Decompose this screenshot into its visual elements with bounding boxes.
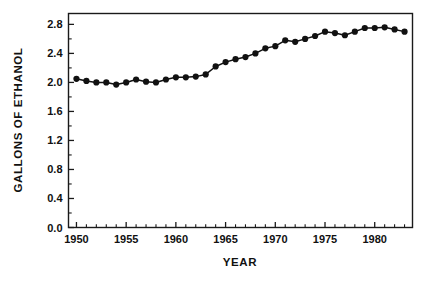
x-tick-label: 1980 <box>362 233 386 245</box>
y-axis-title: GALLONS OF ETHANOL <box>12 48 24 193</box>
y-tick-label: 0.4 <box>47 192 63 204</box>
y-tick-label: 2.8 <box>47 18 62 30</box>
data-point <box>113 81 119 87</box>
x-tick-label: 1975 <box>313 233 337 245</box>
data-point <box>312 33 318 39</box>
data-point <box>242 54 248 60</box>
y-tick-label: 1.6 <box>47 105 62 117</box>
data-point <box>322 29 328 35</box>
y-tick-label: 0.0 <box>47 222 62 234</box>
x-tick-label: 1965 <box>213 233 237 245</box>
line-chart: 0.00.40.81.21.62.02.42.8 195019551960196… <box>0 0 435 281</box>
data-point <box>103 79 109 85</box>
x-tick-label: 1970 <box>263 233 287 245</box>
data-point <box>252 50 258 56</box>
y-tick-label: 0.8 <box>47 163 62 175</box>
data-point <box>262 45 268 51</box>
data-point <box>183 74 189 80</box>
data-point <box>282 37 288 43</box>
data-point <box>272 43 278 49</box>
x-tick-label: 1960 <box>164 233 188 245</box>
data-point <box>73 76 79 82</box>
y-tick-label: 1.2 <box>47 134 62 146</box>
data-point <box>362 25 368 31</box>
data-point <box>123 79 129 85</box>
data-point <box>352 29 358 35</box>
data-point <box>232 56 238 62</box>
data-point <box>401 29 407 35</box>
x-tick-label: 1955 <box>114 233 138 245</box>
data-point <box>173 74 179 80</box>
data-point <box>222 59 228 65</box>
x-tick-label: 1950 <box>64 233 88 245</box>
data-point <box>193 74 199 80</box>
y-tick-label: 2.4 <box>47 47 63 59</box>
data-point <box>342 32 348 38</box>
data-point <box>372 25 378 31</box>
data-point <box>163 76 169 82</box>
data-point <box>83 78 89 84</box>
data-point <box>382 24 388 30</box>
data-point <box>213 63 219 69</box>
data-point <box>93 79 99 85</box>
data-point <box>143 79 149 85</box>
y-tick-label: 2.0 <box>47 76 62 88</box>
data-point <box>392 26 398 32</box>
data-point <box>203 71 209 77</box>
data-point <box>302 36 308 42</box>
data-point <box>332 30 338 36</box>
chart-figure: 0.00.40.81.21.62.02.42.8 195019551960196… <box>0 0 435 281</box>
data-point <box>153 79 159 85</box>
data-point <box>133 76 139 82</box>
data-point <box>292 39 298 45</box>
x-axis-title: YEAR <box>223 256 257 268</box>
